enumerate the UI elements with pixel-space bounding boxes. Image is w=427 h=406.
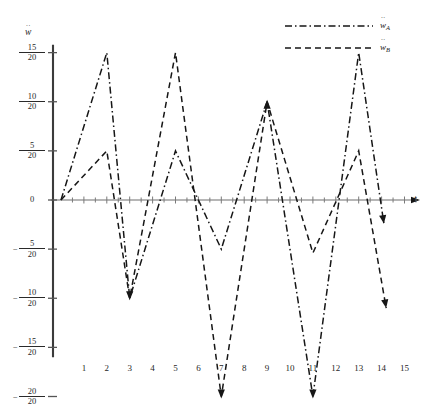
x-tick-label: 6 [191,363,205,373]
converge-marker [126,291,133,300]
dot-accent-icon: ·· [381,37,386,44]
x-tick-label: 7 [214,363,228,373]
x-tick-label: 8 [237,363,251,373]
legend-label: ··wA [380,20,390,31]
y-tick-label: 1520 [19,43,45,62]
x-tick-label: 15 [398,363,412,373]
x-tick-label: 4 [146,363,160,373]
x-tick-label: 2 [100,363,114,373]
y-tick-label: 1020 [19,288,45,307]
y-tick-label: 2020 [19,387,45,406]
x-tick-label: 1 [77,363,91,373]
y-tick-label-sign: − [13,392,18,402]
x-tick-label: 12 [329,363,343,373]
y-tick-label: 520 [19,239,45,258]
y-tick-label: 1020 [19,92,45,111]
x-tick-label: 10 [283,363,297,373]
converge-marker [309,390,316,399]
legend-lines [285,26,373,48]
x-tick-label: 14 [375,363,389,373]
legend-label: ··wB [380,42,390,53]
y-axis-label: ··w [25,27,31,37]
series-end-arrow-b [381,299,388,308]
x-tick-label: 11 [306,363,320,373]
axes [48,45,420,397]
x-tick-label: 13 [352,363,366,373]
y-tick-label: 1520 [19,337,45,356]
legend-entry-a: ··wA [380,19,390,31]
x-tick-label: 5 [169,363,183,373]
x-axis-label: t [414,194,417,204]
y-tick-label-zero: 0 [19,195,45,204]
x-tick-label: 9 [260,363,274,373]
legend-entry-b: ··wB [380,41,390,53]
legend-label-subscript: A [386,24,390,31]
legend-label-subscript: B [386,46,390,53]
converge-marker [218,390,225,399]
series-line-a [61,53,384,397]
y-tick-label-sign: − [13,342,18,352]
x-tick-label: 3 [123,363,137,373]
series-end-arrow-a [379,215,386,224]
dot-accent-icon: ·· [381,15,386,22]
converge-marker [264,100,271,109]
series-line-b [61,53,386,397]
y-tick-label-sign: − [13,244,18,254]
y-tick-label-sign: − [13,293,18,303]
y-tick-label: 520 [19,141,45,160]
data-series [61,53,388,399]
